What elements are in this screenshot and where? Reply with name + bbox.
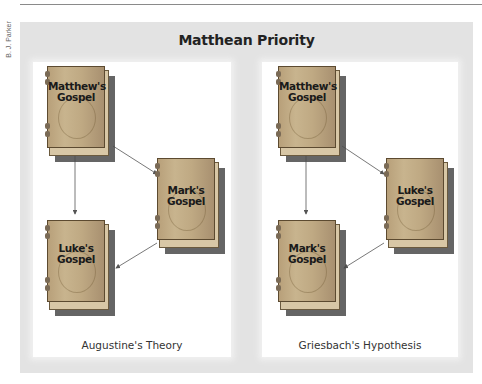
credit-text: B. J. Parker (5, 21, 12, 58)
arrow-matthew-to-mark (113, 146, 157, 174)
arrow-matthew-to-luke (342, 146, 384, 174)
book-matthew: Matthew'sGospel (47, 66, 105, 152)
top-rule (20, 4, 482, 5)
book-label: Luke'sGospel (387, 185, 443, 207)
book-label: Luke'sGospel (48, 243, 104, 265)
book-luke: Luke'sGospel (47, 220, 105, 306)
book-matthew: Matthew'sGospel (278, 66, 336, 152)
book-mark: Mark'sGospel (157, 158, 215, 244)
book-label: Matthew'sGospel (279, 81, 335, 103)
book-label: Mark'sGospel (158, 185, 214, 207)
book-luke: Luke'sGospel (386, 158, 444, 244)
diagram-frame: Matthean Priority Matthew'sGospel Mark's… (20, 22, 473, 373)
augustine-panel: Matthew'sGospel Mark'sGospel Luke'sGospe… (33, 62, 231, 357)
arrow-luke-to-mark (344, 243, 384, 268)
book-label: Matthew'sGospel (48, 81, 104, 103)
caption-augustine: Augustine's Theory (33, 339, 231, 351)
caption-griesbach: Griesbach's Hypothesis (262, 339, 458, 351)
arrow-mark-to-luke (116, 243, 157, 268)
griesbach-panel: Matthew'sGospel Luke'sGospel Mark'sGospe… (262, 62, 458, 357)
diagram-title: Matthean Priority (20, 32, 473, 48)
book-mark: Mark'sGospel (278, 220, 336, 306)
book-label: Mark'sGospel (279, 243, 335, 265)
photo-credit: B. J. Parker (2, 22, 16, 62)
